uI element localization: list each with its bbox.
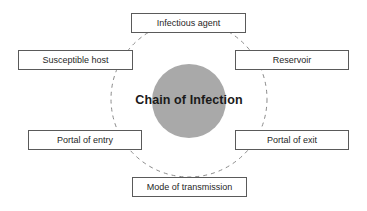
node-label-mode-of-transmission: Mode of transmission xyxy=(147,183,233,192)
node-label-portal-of-entry: Portal of entry xyxy=(57,136,113,145)
chain-of-infection-diagram: Chain of Infection Infectious agent Rese… xyxy=(0,0,367,211)
node-portal-of-exit[interactable]: Portal of exit xyxy=(235,130,349,150)
node-mode-of-transmission[interactable]: Mode of transmission xyxy=(132,177,247,197)
node-label-portal-of-exit: Portal of exit xyxy=(267,136,317,145)
node-infectious-agent[interactable]: Infectious agent xyxy=(131,13,246,33)
node-portal-of-entry[interactable]: Portal of entry xyxy=(28,130,142,150)
diagram-center-title: Chain of Infection xyxy=(119,94,259,107)
node-label-susceptible-host: Susceptible host xyxy=(42,56,108,65)
node-susceptible-host[interactable]: Susceptible host xyxy=(18,50,133,70)
node-reservoir[interactable]: Reservoir xyxy=(235,50,349,70)
node-label-infectious-agent: Infectious agent xyxy=(157,19,221,28)
node-label-reservoir: Reservoir xyxy=(273,56,312,65)
